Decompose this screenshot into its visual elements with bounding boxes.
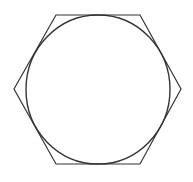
diagram-canvas [0,0,193,182]
hexagon-shape [14,15,181,164]
inscribed-circle-shape [26,15,170,164]
